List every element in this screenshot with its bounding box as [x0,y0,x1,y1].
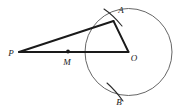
label-point-M: M [62,57,71,67]
geometry-figure: P A O M B [0,0,183,107]
label-point-P: P [7,48,14,58]
point-dot-M [66,50,70,54]
label-point-O: O [131,53,138,63]
geometry-diagram-container: P A O M B [0,0,183,107]
segment-PA [19,21,114,52]
label-point-A: A [117,5,124,15]
label-point-B: B [116,97,122,107]
